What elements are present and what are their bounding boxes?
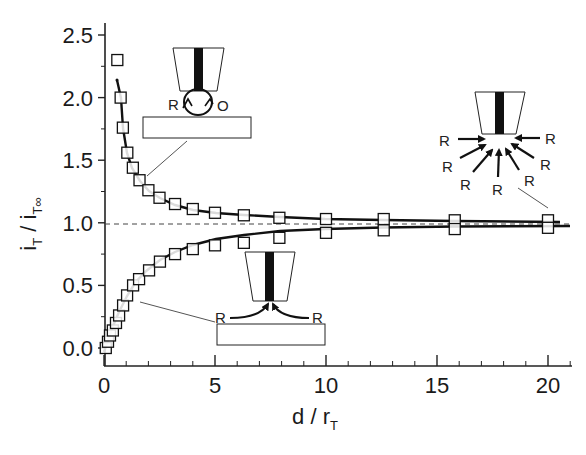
negative-feedback-schematic: R R bbox=[140, 252, 325, 345]
svg-text:R: R bbox=[545, 130, 556, 147]
data-point-square bbox=[117, 122, 128, 133]
y-tick-label: 0.5 bbox=[62, 273, 93, 298]
data-point-square bbox=[187, 204, 198, 215]
x-axis-title: d / rT bbox=[292, 404, 338, 433]
data-point-square bbox=[154, 256, 165, 267]
data-point-square bbox=[114, 310, 125, 321]
data-point-square bbox=[321, 214, 332, 225]
x-tick-label: 15 bbox=[425, 373, 449, 398]
y-axis-title: iT / iT∞ bbox=[16, 197, 45, 250]
label-R: R bbox=[168, 96, 179, 113]
data-point-square bbox=[187, 244, 198, 255]
data-point-square bbox=[170, 199, 181, 210]
svg-text:iT / iT∞: iT / iT∞ bbox=[16, 197, 45, 250]
svg-text:R: R bbox=[215, 309, 226, 326]
x-tick-label: 0 bbox=[98, 373, 110, 398]
y-tick-label: 1.5 bbox=[62, 148, 93, 173]
data-point-square bbox=[122, 147, 133, 158]
y-tick-label: 1.0 bbox=[62, 211, 93, 236]
data-dot bbox=[116, 79, 119, 82]
data-point-square bbox=[122, 290, 133, 301]
svg-text:R: R bbox=[492, 181, 503, 198]
data-point-square bbox=[144, 265, 155, 276]
hemispherical-diffusion-schematic: R R R R R R R bbox=[439, 92, 556, 208]
data-point-square bbox=[543, 222, 554, 233]
x-tick-label: 5 bbox=[209, 373, 221, 398]
x-tick-label: 20 bbox=[536, 373, 560, 398]
data-point-square bbox=[238, 237, 249, 248]
y-tick-label: 0.0 bbox=[62, 336, 93, 361]
data-point-square bbox=[134, 175, 145, 186]
svg-text:R: R bbox=[439, 132, 450, 149]
label-O: O bbox=[217, 97, 229, 114]
y-axis bbox=[98, 23, 105, 366]
data-point-square bbox=[274, 212, 285, 223]
data-point-square bbox=[127, 162, 138, 173]
svg-text:R: R bbox=[540, 156, 551, 173]
svg-text:R: R bbox=[312, 309, 323, 326]
data-point-square bbox=[112, 55, 123, 66]
y-tick-label: 2.0 bbox=[62, 86, 93, 111]
data-point-square bbox=[210, 240, 221, 251]
data-point-square bbox=[143, 185, 154, 196]
data-point-square bbox=[378, 214, 389, 225]
svg-text:R: R bbox=[524, 172, 535, 189]
data-point-square bbox=[238, 210, 249, 221]
data-point-square bbox=[115, 92, 126, 103]
x-tick-label: 10 bbox=[314, 373, 338, 398]
y-tick-labels: 0.00.51.01.52.02.5 bbox=[62, 23, 93, 361]
positive-feedback-schematic: R O bbox=[143, 48, 251, 176]
svg-text:R: R bbox=[442, 158, 453, 175]
data-point-square bbox=[210, 207, 221, 218]
data-point-square bbox=[154, 192, 165, 203]
x-axis bbox=[104, 355, 572, 366]
svg-text:R: R bbox=[460, 176, 471, 193]
data-point-square bbox=[378, 225, 389, 236]
data-point-square bbox=[274, 232, 285, 243]
y-tick-label: 2.5 bbox=[62, 23, 93, 48]
data-point-square bbox=[170, 249, 181, 260]
data-point-square bbox=[449, 224, 460, 235]
data-point-square bbox=[321, 227, 332, 238]
x-tick-labels: 05101520 bbox=[98, 373, 560, 398]
feedback-curve-chart: 0.00.51.01.52.02.5 05101520 d / rT iT / … bbox=[0, 0, 586, 455]
data-point-square bbox=[118, 300, 129, 311]
negative-feedback-curve bbox=[104, 226, 570, 352]
